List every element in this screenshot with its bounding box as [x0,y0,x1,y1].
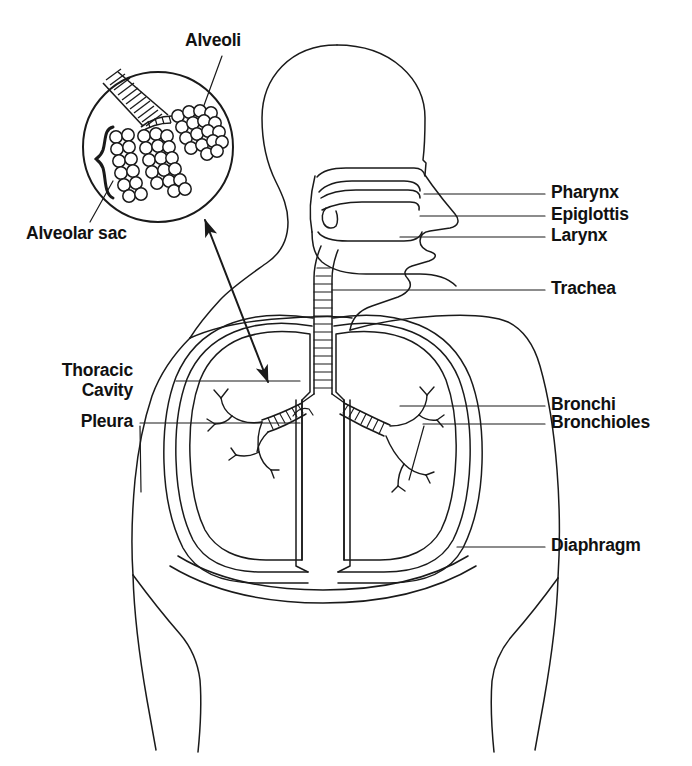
diaphragm-line-lower [170,566,476,603]
head-back-neck [190,45,337,338]
pharynx-wall [310,176,315,232]
label-larynx: Larynx [551,226,607,246]
diaphragm-line-upper [178,556,468,590]
oral-cavity-roof [321,190,420,198]
label-thoracic: Thoracic [0,361,133,381]
label-alveoli: Alveoli [185,31,241,51]
left-lung-middle [176,323,312,572]
alveoli-clusters [96,69,228,202]
right-bronchiole-tree [386,387,444,492]
left-bronchiole-tree [207,389,279,478]
label-alveolar-sac: Alveolar sac [26,224,127,244]
face-profile [337,45,458,330]
right-lung-middle [334,323,470,572]
epiglottis-flap [322,208,337,228]
label-trachea: Trachea [551,279,616,299]
nasal-cavity-upper [317,168,425,177]
left-shoulder-line [190,317,352,339]
right-shoulder-arm-outline [350,315,559,578]
right-bronchus-lower [340,414,384,436]
right-bronchus-upper [346,404,390,425]
alveolar-sac-leader [90,181,113,222]
right-waist-curve [491,578,558,752]
label-cavity: Cavity [0,381,133,401]
label-pleura: Pleura [0,412,133,432]
left-lung-outer [164,315,313,583]
label-bronchioles: Bronchioles [551,413,650,433]
bronchial-tree [207,387,444,492]
right-lung-inner [336,332,456,560]
diagram-canvas: Alveoli Alveolar sac Pharynx Epiglottis … [0,0,692,766]
inset-bronchiole-bottom [118,72,168,115]
trachea-cartilage-rings [314,268,332,388]
label-epiglottis: Epiglottis [551,205,629,225]
left-lung-inner [190,332,310,560]
trachea-right-wall [332,250,338,394]
left-waist-curve [133,575,201,752]
right-lung-outer [333,315,482,583]
tongue-line [322,202,419,210]
label-pharynx: Pharynx [551,183,619,203]
label-diaphragm: Diaphragm [551,536,641,556]
alveolar-sac-cluster-1 [172,105,228,160]
